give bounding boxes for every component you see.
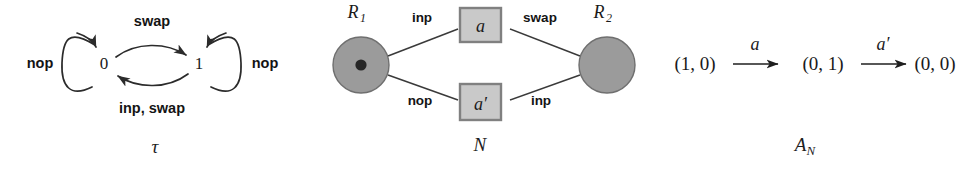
arc-a-to-R2 [510, 29, 580, 56]
run-state-0: (1, 0) [674, 53, 715, 75]
transition-system-diagram: 0 1 nop nop swap inp, swap [0, 0, 310, 135]
state-label-0: 0 [100, 54, 109, 73]
run-arrow-label-a: a [751, 34, 760, 54]
arc-R1-to-a [388, 29, 458, 56]
edge-1-to-0 [118, 74, 188, 86]
arc-label-inp-bottom: inp [531, 93, 551, 108]
caption-tau: τ [0, 136, 310, 158]
edge-label-inp-swap: inp, swap [119, 100, 185, 116]
caption-N: N [310, 134, 650, 156]
panel-transition-system: 0 1 nop nop swap inp, swap τ [0, 0, 310, 177]
state-label-1: 1 [195, 54, 204, 73]
self-loop-state-0 [62, 37, 95, 91]
petri-net-diagram: R 1 R 2 a a′ inp swap nop inp [310, 0, 650, 135]
run-arrow-label-a-prime: a′ [877, 34, 891, 54]
edge-label-swap: swap [134, 13, 170, 29]
caption-A-N: AN [650, 134, 960, 159]
caption-A-N-subscript: N [807, 143, 816, 158]
transition-label-a: a [476, 16, 485, 36]
place-label-R2-subscript: 2 [606, 11, 612, 25]
place-label-R1: R [347, 2, 359, 22]
run-state-2: (0, 0) [914, 53, 955, 75]
place-R2 [579, 37, 635, 93]
place-label-R1-subscript: 1 [360, 11, 366, 25]
self-loop-label-nop-right: nop [252, 55, 279, 71]
automaton-run-diagram: (1, 0) a (0, 1) a′ (0, 0) [650, 0, 960, 135]
figure-container: 0 1 nop nop swap inp, swap τ [0, 0, 960, 177]
arc-label-nop: nop [408, 93, 433, 108]
edge-0-to-1 [116, 45, 186, 57]
panel-automaton: (1, 0) a (0, 1) a′ (0, 0) AN [650, 0, 960, 177]
caption-A-N-base: A [795, 134, 807, 155]
panel-petri-net: R 1 R 2 a a′ inp swap nop inp N [310, 0, 650, 177]
place-label-R2: R [593, 2, 605, 22]
self-loop-state-1 [208, 37, 241, 91]
run-state-1: (0, 1) [802, 53, 843, 75]
self-loop-label-nop-left: nop [27, 55, 54, 71]
arc-label-swap: swap [523, 10, 557, 25]
token-R1 [355, 59, 366, 70]
transition-label-a-prime: a′ [474, 94, 488, 114]
arc-label-inp-top: inp [412, 10, 432, 25]
